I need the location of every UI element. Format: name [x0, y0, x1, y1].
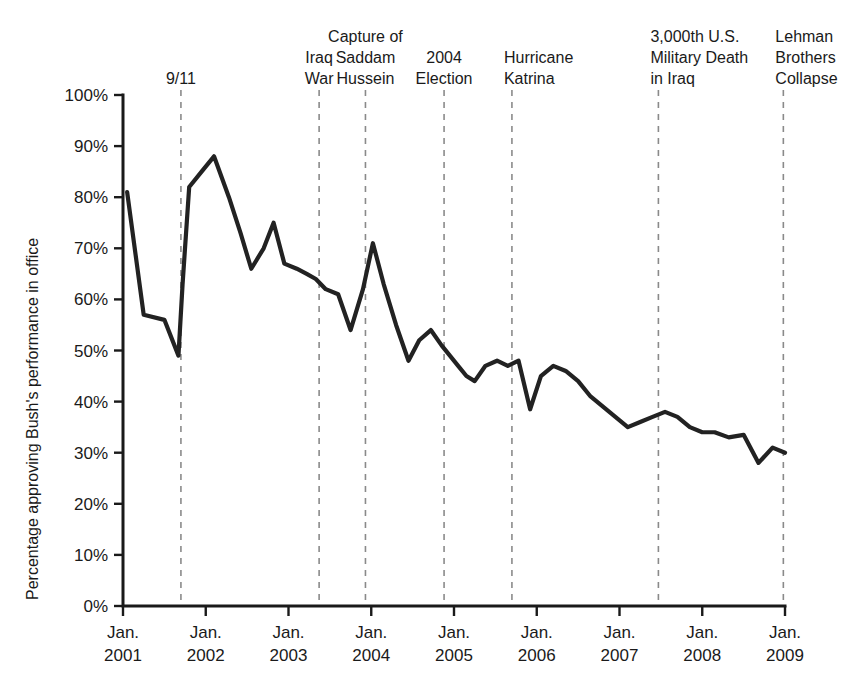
x-tick-label-year: 2002 [187, 646, 225, 665]
event-annotation-label: Hussein [337, 70, 395, 87]
x-tick-label-month: Jan. [521, 623, 553, 642]
event-annotation-label: 2004 [426, 49, 462, 66]
event-annotation-label: Iraq [305, 49, 333, 66]
event-annotation-label: Lehman [775, 28, 833, 45]
event-annotation-label: Brothers [775, 49, 835, 66]
event-annotation-label: Election [416, 70, 473, 87]
y-axis-title: Percentage approving Bush's performance … [24, 238, 41, 600]
approval-line-series [127, 156, 785, 463]
x-tick-label-year: 2003 [270, 646, 308, 665]
event-annotation-label: in Iraq [650, 70, 694, 87]
x-tick-label-year: 2004 [352, 646, 390, 665]
x-tick-label-month: Jan. [355, 623, 387, 642]
event-annotation-label: Hurricane [504, 49, 573, 66]
event-gridlines-group [181, 90, 783, 606]
y-axis-ticks-group: 0%10%20%30%40%50%60%70%80%90%100% [65, 86, 123, 616]
x-tick-label-year: 2008 [683, 646, 721, 665]
x-tick-label-month: Jan. [272, 623, 304, 642]
x-tick-label-year: 2005 [435, 646, 473, 665]
x-tick-label-year: 2001 [104, 646, 142, 665]
event-annotation-label: Military Death [650, 49, 748, 66]
axis-lines [123, 95, 785, 606]
event-annotations-group: 9/11IraqWarCapture ofSaddamHussein2004El… [166, 28, 838, 87]
y-tick-label: 100% [65, 86, 108, 105]
x-tick-label-month: Jan. [686, 623, 718, 642]
event-annotation-label: 9/11 [166, 70, 196, 87]
y-tick-label: 30% [74, 444, 108, 463]
event-annotation-label: Katrina [504, 70, 555, 87]
y-tick-label: 0% [83, 597, 108, 616]
event-annotation-label: Collapse [775, 70, 837, 87]
x-tick-label-year: 2006 [518, 646, 556, 665]
event-annotation-label: Capture of [328, 28, 403, 45]
event-annotation-label: War [305, 70, 334, 87]
x-axis-ticks-group: Jan.2001Jan.2002Jan.2003Jan.2004Jan.2005… [104, 606, 804, 665]
x-tick-label-year: 2009 [766, 646, 804, 665]
event-annotation-label: Saddam [336, 49, 396, 66]
y-tick-label: 50% [74, 342, 108, 361]
x-tick-label-month: Jan. [190, 623, 222, 642]
x-tick-label-month: Jan. [438, 623, 470, 642]
y-tick-label: 10% [74, 546, 108, 565]
y-tick-label: 20% [74, 495, 108, 514]
y-tick-label: 40% [74, 393, 108, 412]
x-tick-label-year: 2007 [601, 646, 639, 665]
event-annotation-label: 3,000th U.S. [650, 28, 739, 45]
y-tick-label: 90% [74, 137, 108, 156]
y-tick-label: 60% [74, 290, 108, 309]
y-tick-label: 80% [74, 188, 108, 207]
y-tick-label: 70% [74, 239, 108, 258]
chart-canvas: 9/11IraqWarCapture ofSaddamHussein2004El… [0, 0, 847, 697]
x-tick-label-month: Jan. [603, 623, 635, 642]
approval-rating-chart: 9/11IraqWarCapture ofSaddamHussein2004El… [0, 0, 847, 697]
x-tick-label-month: Jan. [107, 623, 139, 642]
x-tick-label-month: Jan. [769, 623, 801, 642]
